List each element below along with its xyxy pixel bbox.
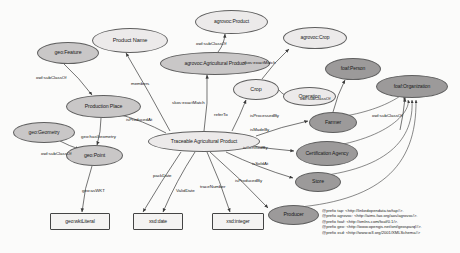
node-label: Traceable Agricultural Product — [169, 139, 239, 144]
edge-label-e19: ValidDate — [176, 188, 195, 193]
node-label: agrovoc:Product — [212, 19, 251, 24]
edge-label-e13: geo:asWKT — [82, 188, 105, 193]
edge-label-e5: skos:exactMatch — [243, 60, 276, 65]
edge-label-e7: isProcessedBy — [250, 113, 279, 118]
node-label: Farmer — [323, 120, 343, 125]
node-xsd_integer[interactable]: xsd:integer — [212, 213, 264, 230]
node-farmer[interactable]: Farmer — [309, 112, 357, 133]
legend-line: @prefix geo: <http://www.opengis.net/ont… — [322, 224, 422, 229]
edge-label-e4: skos:exactMatch — [172, 100, 205, 105]
node-certification[interactable]: Certification Agency — [296, 141, 358, 166]
node-label: geo:Geometry — [26, 130, 61, 135]
node-label: xsd:integer — [224, 219, 251, 224]
edge-label-e2: owl:subClassOf — [36, 75, 67, 80]
edge-e11 — [97, 118, 101, 145]
node-label: Product Name — [111, 38, 150, 44]
node-geo_wktliteral[interactable]: geo:wktLiteral — [50, 213, 110, 230]
node-agrovoc_product[interactable]: agrovoc:Product — [195, 10, 268, 34]
node-label: Certification Agency — [303, 151, 350, 156]
node-label: Crop — [248, 87, 263, 93]
edge-label-e16: isSoldAt — [252, 161, 268, 166]
legend-line: @prefix xsd: <http://www.w3.org/2001/XML… — [322, 230, 422, 235]
ontology-diagram-canvas: agrovoc:ProductProduct Namegeo:Featureag… — [0, 0, 460, 253]
edge-e2 — [64, 64, 92, 95]
edge-label-e11: geo:hasGeometry — [81, 134, 116, 139]
node-foaf_person[interactable]: foaf:Person — [325, 58, 381, 80]
node-label: agrovoc:Agricultural Product — [182, 61, 247, 66]
edge-label-e14: isMadeBy — [250, 127, 269, 132]
node-geo_geometry[interactable]: geo:Geometry — [13, 122, 75, 143]
node-label: Store — [310, 179, 326, 184]
prefix-legend: @prefix tap: <http://linkedopendata.tw/t… — [322, 208, 422, 235]
edge-label-e17: isProducedBy — [235, 178, 262, 183]
node-product_name[interactable]: Product Name — [92, 28, 168, 53]
node-crop[interactable]: Crop — [233, 79, 279, 100]
node-production_place[interactable]: Production Place — [66, 95, 141, 118]
node-store[interactable]: Store — [295, 172, 341, 192]
node-geo_feature[interactable]: geo:Feature — [37, 42, 99, 64]
legend-line: @prefix agrovoc: <http://aims.fao.org/ao… — [322, 213, 422, 218]
edge-e6 — [232, 100, 246, 131]
node-label: Production Place — [83, 104, 125, 109]
edge-label-e18: packDate — [153, 173, 172, 178]
node-xsd_date[interactable]: xsd:date — [133, 213, 183, 230]
edge-label-e10: isProducedAt — [126, 117, 152, 122]
node-geo_point[interactable]: geo:Point — [66, 145, 123, 166]
node-label: foaf:Person — [339, 66, 367, 71]
edge-e19 — [163, 152, 195, 212]
node-foaf_organization[interactable]: foaf:Organization — [376, 75, 448, 98]
node-label: geo:Point — [82, 153, 107, 158]
edge-label-e15: isCertifiedBy — [243, 145, 268, 150]
edge-e20 — [207, 152, 230, 212]
edge-subclassof-organization-2 — [300, 100, 412, 178]
node-label: Producer — [281, 212, 305, 217]
edge-label-e9: owl:subClassOf — [372, 113, 403, 118]
node-agrovoc_crop[interactable]: agrovoc:Crop — [283, 27, 347, 49]
node-label: xsd:date — [147, 219, 169, 224]
node-label: agrovoc:Crop — [299, 35, 332, 40]
edge-label-e20: traceNumber — [200, 184, 225, 189]
edge-label-e12: owl:subClassOf — [41, 151, 72, 156]
edge-label-e3: members — [131, 81, 149, 86]
edge-label-e6: referTo — [214, 112, 228, 117]
edge-e18 — [143, 152, 181, 212]
edge-label-e8: owl:subClassOf — [300, 96, 331, 101]
node-label: geo:Feature — [53, 50, 84, 55]
node-label: foaf:Organization — [392, 84, 432, 89]
node-producer[interactable]: Producer — [268, 205, 319, 225]
node-label: geo:wktLiteral — [63, 219, 96, 224]
edge-label-e1: owl:subClassOf — [196, 41, 227, 46]
